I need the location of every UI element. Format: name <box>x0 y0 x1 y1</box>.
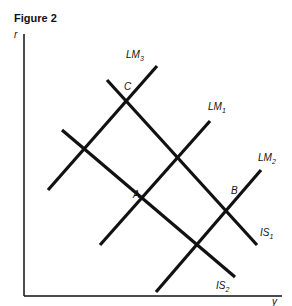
y-axis-label: r <box>14 29 18 40</box>
point-label-b: B <box>231 185 238 196</box>
curve-lm3 <box>48 66 157 190</box>
point-label-c: C <box>124 81 132 92</box>
curve-is2 <box>62 130 235 277</box>
curve-label-is2: IS2 <box>216 280 229 293</box>
curve-label-lm2: LM2 <box>258 152 276 165</box>
x-axis-label: y <box>271 296 278 306</box>
curve-label-lm3: LM3 <box>126 49 144 62</box>
curve-label-is1: IS1 <box>260 227 273 240</box>
point-label-a: A <box>132 189 140 200</box>
curve-lm1 <box>100 121 210 245</box>
curve-label-lm1: LM1 <box>208 101 226 114</box>
islm-diagram: r y LM3LM1LM2IS1IS2 CAB <box>0 0 292 306</box>
curve-is1 <box>107 80 257 245</box>
